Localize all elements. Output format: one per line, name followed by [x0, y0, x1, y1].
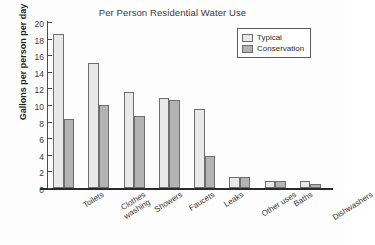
- bar-typical[interactable]: [300, 181, 311, 188]
- bar-typical[interactable]: [53, 34, 64, 188]
- y-axis-tick-label: 12: [35, 85, 48, 95]
- x-axis-tick-label: Dishwashers: [331, 190, 375, 222]
- x-axis-tick-label: Clotheswashing: [117, 190, 151, 221]
- y-axis-tick: 14: [35, 63, 48, 81]
- y-axis-tick-label: 16: [35, 52, 48, 62]
- y-axis-tick-label: 2: [39, 168, 48, 178]
- bar-typical[interactable]: [265, 181, 276, 188]
- legend-item[interactable]: Conservation: [242, 43, 304, 54]
- legend-label: Typical: [257, 33, 282, 42]
- y-axis-tick: 2: [39, 162, 48, 180]
- bar-group: [159, 22, 180, 188]
- y-axis-tick: 8: [39, 113, 48, 131]
- legend-swatch-typical: [242, 34, 253, 42]
- legend-swatch-conservation: [242, 45, 253, 53]
- bar-group: [124, 22, 145, 188]
- y-axis-tick-label: 10: [35, 102, 48, 112]
- y-axis-tick-label: 4: [39, 152, 48, 162]
- bar-conservation[interactable]: [275, 181, 286, 188]
- x-axis-tick-label-line: Baths: [292, 190, 314, 208]
- bar-conservation[interactable]: [205, 156, 216, 188]
- y-axis-tick: 12: [35, 79, 48, 97]
- y-axis-tick-label: 20: [35, 19, 48, 29]
- bar-conservation[interactable]: [99, 105, 110, 188]
- x-axis-tick-label-line: Toilets: [81, 190, 105, 210]
- bar-conservation[interactable]: [134, 116, 145, 188]
- y-axis-title: Gallons per person per day: [18, 0, 28, 142]
- y-axis-tick-label: 18: [35, 36, 48, 46]
- y-axis-tick: 10: [35, 96, 48, 114]
- bar-conservation[interactable]: [64, 119, 75, 188]
- bar-typical[interactable]: [88, 63, 99, 188]
- x-axis-tick-label-line: Faucets: [188, 190, 217, 213]
- y-axis-tick: 16: [35, 46, 48, 64]
- bar-group: [88, 22, 109, 188]
- chart-title: Per Person Residential Water Use: [0, 7, 345, 18]
- bar-typical[interactable]: [124, 92, 135, 188]
- y-axis-tick: 18: [35, 30, 48, 48]
- x-axis-tick-label-line: Dishwashers: [331, 190, 375, 222]
- y-axis-tick-label: 8: [39, 119, 48, 129]
- x-axis-tick-label-line: Other uses: [260, 190, 298, 218]
- x-axis-tick-label: Leaks: [222, 190, 245, 209]
- legend-label: Conservation: [257, 44, 304, 53]
- x-axis-tick-label: Faucets: [188, 190, 217, 213]
- y-axis-tick-label: 0: [39, 185, 48, 195]
- legend-item[interactable]: Typical: [242, 32, 304, 43]
- y-axis-tick-label: 14: [35, 69, 48, 79]
- y-axis-tick: 4: [39, 146, 48, 164]
- x-axis-tick-label-line: Showers: [153, 190, 184, 214]
- chart-legend: TypicalConservation: [237, 28, 311, 58]
- x-axis-tick-label: Showers: [153, 190, 184, 214]
- y-axis-tick: 0: [39, 179, 48, 197]
- bar-group: [53, 22, 74, 188]
- x-axis-tick-label-line: Leaks: [222, 190, 245, 209]
- bar-conservation[interactable]: [240, 177, 251, 188]
- bar-group: [194, 22, 215, 188]
- y-axis-tick-mark: [48, 188, 52, 189]
- y-axis-tick: 6: [39, 129, 48, 147]
- y-axis-tick-label: 6: [39, 135, 48, 145]
- bar-typical[interactable]: [194, 109, 205, 188]
- bar-typical[interactable]: [229, 177, 240, 188]
- bar-conservation[interactable]: [169, 100, 180, 188]
- x-axis-tick-label: Baths: [292, 190, 314, 208]
- x-axis-tick-labels: ToiletsClotheswashingShowersFaucetsLeaks…: [48, 190, 330, 245]
- bar-typical[interactable]: [159, 98, 170, 188]
- x-axis-tick-label: Toilets: [81, 190, 105, 210]
- x-axis-tick-label: Other uses: [260, 190, 298, 218]
- bar-conservation[interactable]: [310, 184, 321, 188]
- y-axis-tick: 20: [35, 13, 48, 31]
